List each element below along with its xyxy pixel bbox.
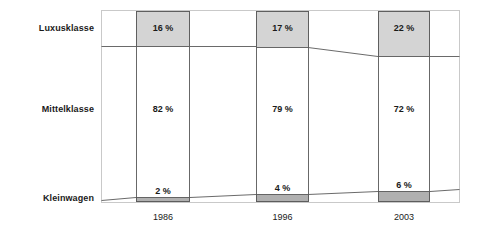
x-axis-label-1986: 1986 <box>136 212 190 222</box>
value-label-klein-1986: 2 % <box>136 186 190 196</box>
band-klein-right-stub <box>430 190 460 192</box>
plot-area <box>0 0 484 236</box>
bar-1986-kleinwagen <box>137 198 190 202</box>
bar-2003-luxusklasse <box>379 12 430 57</box>
chart-container: Luxusklasse Mittelklasse Kleinwagen 16 <box>0 0 484 236</box>
value-label-mittel-2003: 72 % <box>378 104 430 114</box>
value-label-mittel-1986: 82 % <box>136 104 190 114</box>
value-label-mittel-1996: 79 % <box>256 104 309 114</box>
value-label-luxus-1996: 17 % <box>256 23 309 33</box>
x-axis-label-2003: 2003 <box>378 212 430 222</box>
band-klein-1986-1996 <box>190 195 256 198</box>
value-label-klein-1996: 4 % <box>256 183 309 193</box>
band-klein-1996-2003 <box>308 192 378 195</box>
band-klein-left-stub <box>102 198 137 201</box>
x-axis-label-1996: 1996 <box>256 212 309 222</box>
bar-2003-kleinwagen <box>379 192 430 202</box>
bar-1996-kleinwagen <box>257 195 309 202</box>
value-label-luxus-2003: 22 % <box>378 23 430 33</box>
band-luxus-1996-2003 <box>308 48 378 57</box>
value-label-klein-2003: 6 % <box>378 180 430 190</box>
value-label-luxus-1986: 16 % <box>136 23 190 33</box>
